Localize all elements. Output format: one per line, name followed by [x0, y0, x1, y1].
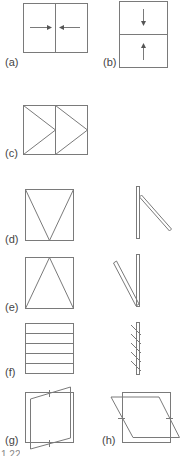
arrow-up-icon [141, 43, 146, 60]
panel-f-side-view [131, 323, 141, 375]
window-types-diagram [0, 0, 180, 456]
label-f: (f) [5, 366, 15, 378]
label-d: (d) [5, 233, 18, 245]
panel-e-side-view [114, 255, 140, 307]
arrow-right-icon [30, 25, 52, 30]
panel-h-horizontal-pivot [111, 393, 180, 443]
arrow-left-icon [59, 25, 80, 30]
panel-g-vertical-pivot [26, 387, 74, 449]
panel-f-louvred [26, 324, 74, 374]
panel-c-side-hung [24, 106, 88, 155]
panel-e-bottom-hung [26, 258, 74, 309]
label-g: (g) [5, 434, 18, 446]
panel-d-side-view [137, 187, 172, 239]
label-c: (c) [5, 147, 18, 159]
arrow-down-icon [141, 9, 146, 26]
panel-a-horizontal-sliding [24, 4, 88, 53]
label-b: (b) [103, 56, 116, 68]
label-e: (e) [5, 301, 18, 313]
panel-b-vertical-sliding [120, 2, 168, 68]
figure-caption: 1.22 [1, 450, 20, 456]
label-a: (a) [5, 56, 18, 68]
panel-d-top-hung [26, 190, 74, 241]
label-h: (h) [102, 434, 115, 446]
